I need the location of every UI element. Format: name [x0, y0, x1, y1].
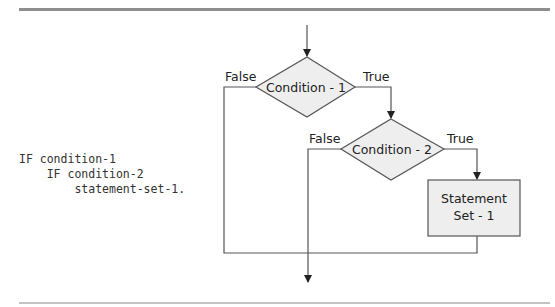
d1-false-label: False [225, 69, 257, 84]
d2-true-label: True [446, 131, 474, 146]
bottom-rule [19, 302, 550, 304]
d2-false-exit-connector [308, 149, 341, 282]
figure: IF condition-1 IF condition-2 statement-… [0, 0, 555, 307]
decision-2-label: Condition - 2 [352, 142, 432, 157]
d1-true-connector [355, 87, 391, 118]
process-return-connector [308, 236, 477, 253]
d2-true-connector [444, 149, 477, 179]
statement-line-2: Set - 1 [454, 208, 495, 223]
decision-1-label: Condition - 1 [266, 80, 346, 95]
d1-true-label: True [362, 69, 390, 84]
d2-false-label: False [309, 131, 341, 146]
statement-line-1: Statement [441, 191, 507, 206]
d1-false-connector [224, 87, 308, 253]
flowchart: Condition - 1 Condition - 2 Statement Se… [0, 0, 555, 307]
